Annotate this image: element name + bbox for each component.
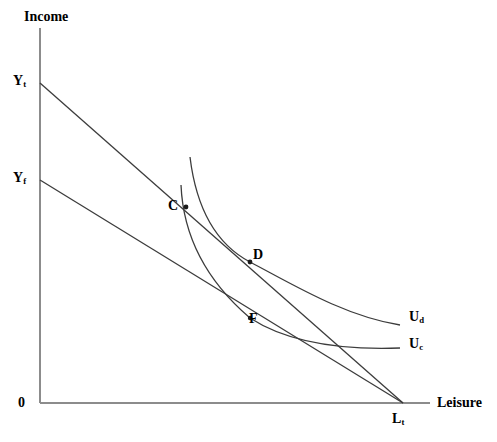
x-axis-title: Leisure <box>437 396 482 410</box>
curve-label-uc: Uc <box>409 337 423 351</box>
y-tick-yt-base: Y <box>13 73 23 88</box>
point-d-marker <box>248 260 253 265</box>
point-label-f: F <box>249 312 258 326</box>
x-tick-lt-base: L <box>392 411 401 426</box>
curve-uc-sub: c <box>419 342 423 352</box>
indifference-curve-ud <box>190 157 400 325</box>
figure-canvas: Income Leisure 0 Yt Yf Lt C D F Ud Uc <box>0 0 497 442</box>
curve-ud-sub: d <box>419 315 424 325</box>
point-label-c: C <box>168 199 178 213</box>
y-tick-yf-base: Y <box>13 170 23 185</box>
curve-label-ud: Ud <box>409 310 424 324</box>
x-tick-lt-sub: t <box>402 417 405 427</box>
origin-label: 0 <box>18 396 25 410</box>
lower-budget-line <box>40 180 403 403</box>
y-tick-label-yf: Yf <box>13 171 26 185</box>
upper-budget-line <box>40 83 403 403</box>
point-label-d: D <box>253 248 263 262</box>
x-tick-label-lt: Lt <box>392 412 404 426</box>
y-tick-yf-sub: f <box>23 176 26 186</box>
y-tick-yt-sub: t <box>23 79 26 89</box>
y-axis-title: Income <box>24 10 68 24</box>
point-c-marker <box>184 205 189 210</box>
y-tick-label-yt: Yt <box>13 74 26 88</box>
diagram-svg <box>0 0 497 442</box>
curve-uc-base: U <box>409 336 419 351</box>
curve-ud-base: U <box>409 309 419 324</box>
indifference-curve-uc <box>181 185 400 348</box>
